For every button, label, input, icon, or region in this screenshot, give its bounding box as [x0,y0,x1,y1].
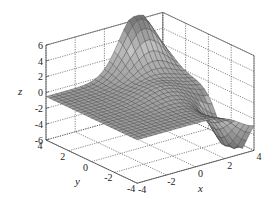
x-tick-label: -2 [167,176,175,187]
z-tick-label: -2 [35,103,43,114]
z-tick-label: -4 [35,119,43,130]
y-tick-label: -4 [127,183,135,194]
x-tick-label: -4 [138,184,146,195]
x-tick-label: 2 [227,160,232,171]
x-tick-label: 0 [198,168,203,179]
y-axis-label: y [74,175,80,187]
z-axis-label: z [17,85,23,97]
z-tick-label: 2 [38,71,43,82]
x-tick-label: 4 [257,151,262,162]
y-tick-label: 4 [38,140,43,151]
z-tick-label: 0 [38,87,43,98]
surface-plot: -6-4-20246-4-2024-4-2024 z y x [0,0,274,214]
z-tick-label: 4 [38,56,43,67]
x-axis-label: x [197,182,203,194]
y-tick-label: 0 [83,162,88,173]
z-tick-label: 6 [38,40,43,51]
surface-mesh [46,15,254,149]
y-tick-label: 2 [60,151,65,162]
y-tick-label: -2 [104,172,112,183]
